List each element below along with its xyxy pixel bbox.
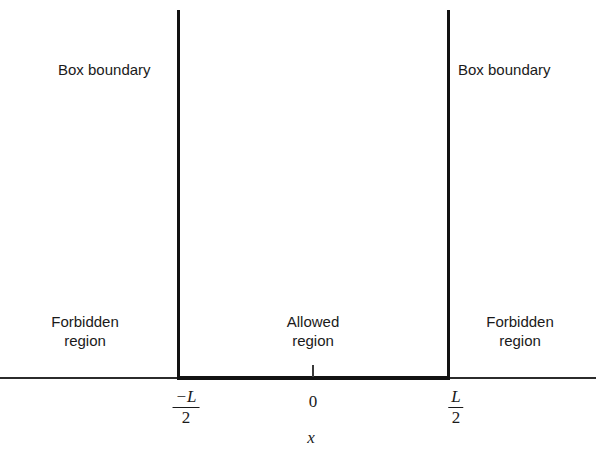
box-boundary-line-right xyxy=(447,10,450,380)
allowed-region-label-line1: Allowed xyxy=(287,312,340,331)
x-axis-label: x xyxy=(307,428,315,448)
fraction-minus-l-over-2: −L 2 xyxy=(173,388,200,427)
fraction-l-over-2: L 2 xyxy=(448,388,463,427)
box-boundary-label-left: Box boundary xyxy=(58,60,151,79)
box-boundary-label-right: Box boundary xyxy=(458,60,551,79)
fraction-numerator: −L xyxy=(173,388,200,408)
box-boundary-line-left xyxy=(177,10,180,380)
forbidden-region-label-right-line2: region xyxy=(486,331,554,350)
forbidden-region-label-right-line1: Forbidden xyxy=(486,312,554,331)
allowed-region-label: Allowed region xyxy=(287,312,340,350)
forbidden-region-label-right: Forbidden region xyxy=(486,312,554,350)
x-tick-label-zero: 0 xyxy=(309,392,318,412)
forbidden-region-label-left-line1: Forbidden xyxy=(51,312,119,331)
axis-line-right-outer xyxy=(450,377,596,379)
x-tick-label-l-over-2: L 2 xyxy=(448,388,463,427)
fraction-denominator: 2 xyxy=(448,408,463,427)
fraction-denominator: 2 xyxy=(173,408,200,427)
allowed-region-label-line2: region xyxy=(287,331,340,350)
well-bottom-line xyxy=(178,376,450,380)
potential-well-figure: Box boundary Box boundary Forbidden regi… xyxy=(0,0,603,460)
origin-tick-mark xyxy=(312,365,314,377)
forbidden-region-label-left-line2: region xyxy=(51,331,119,350)
x-tick-label-minus-l-over-2: −L 2 xyxy=(173,388,200,427)
fraction-numerator: L xyxy=(448,388,463,408)
axis-line-left-outer xyxy=(0,377,178,379)
forbidden-region-label-left: Forbidden region xyxy=(51,312,119,350)
